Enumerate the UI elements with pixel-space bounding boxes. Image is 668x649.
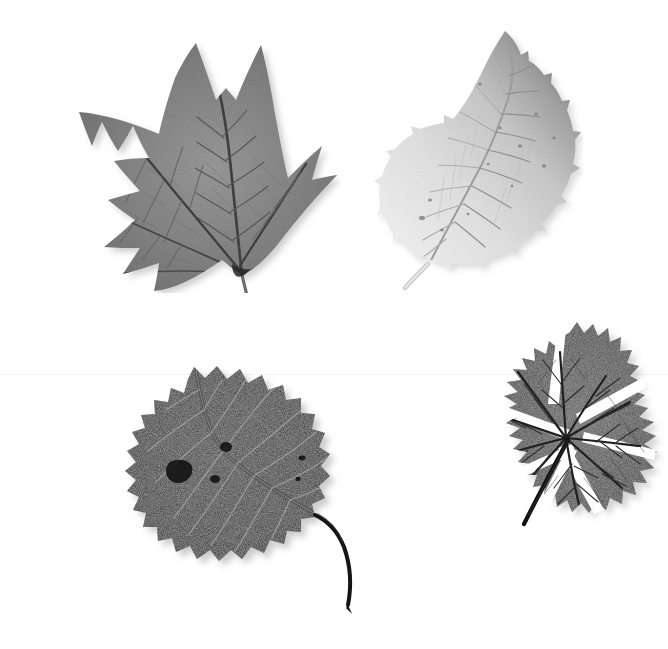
specimen-cell-bottom-left: [72, 362, 364, 622]
elm-blade: [374, 31, 581, 270]
specimen-cell-bottom-right: [418, 318, 668, 553]
aspen-blade: [125, 366, 330, 561]
elm-petiole: [405, 264, 428, 288]
tulip-poplar-blade: [79, 43, 337, 291]
leaf-specimen-plate: palmate, four to five lobed with broad n…: [0, 0, 668, 649]
specimen-cell-top-right: [368, 18, 583, 298]
tulip-poplar-leaf-image: [30, 28, 340, 293]
aspen-cottonwood-leaf-image: [72, 362, 364, 622]
elm-leaf-image: [368, 18, 583, 298]
geranium-maple-leaf-image: [418, 318, 668, 553]
specimen-cell-top-left: [30, 28, 340, 293]
aspen-petiole: [315, 514, 352, 614]
